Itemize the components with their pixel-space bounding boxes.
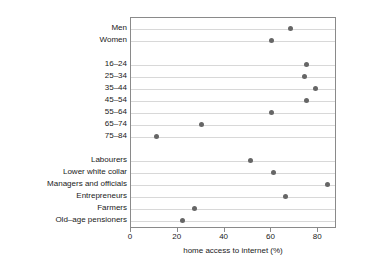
category-label: 75–84	[105, 132, 127, 140]
data-point	[199, 122, 204, 127]
category-label: 35–44	[105, 84, 127, 92]
x-tick-label: 60	[266, 233, 275, 241]
data-point	[180, 218, 185, 223]
grid-line	[131, 173, 335, 174]
category-label: 16–24	[105, 60, 127, 68]
grid-line	[131, 125, 335, 126]
category-label: Entrepreneurs	[76, 192, 127, 200]
category-label: Men	[111, 24, 127, 32]
data-point	[304, 62, 309, 67]
grid-line	[131, 221, 335, 222]
category-label: 55–64	[105, 108, 127, 116]
grid-line	[131, 161, 335, 162]
data-point	[269, 38, 274, 43]
data-point	[313, 86, 318, 91]
x-tick-label: 80	[313, 233, 322, 241]
data-point	[283, 194, 288, 199]
category-label: Labourers	[91, 156, 127, 164]
grid-line	[131, 137, 335, 138]
category-label: Old–age pensioners	[55, 216, 127, 224]
plot-area	[130, 17, 336, 228]
grid-line	[131, 113, 335, 114]
x-axis-title: home access to internet (%)	[130, 247, 336, 255]
category-label: 25–34	[105, 72, 127, 80]
dot-plot-chart: MenWomen16–2425–3435–4445–5455–6465–7475…	[0, 0, 366, 274]
category-label: Farmers	[97, 204, 127, 212]
data-point	[154, 134, 159, 139]
grid-line	[131, 29, 335, 30]
x-tick-label: 0	[128, 233, 132, 241]
data-point	[248, 158, 253, 163]
category-label: 45–54	[105, 96, 127, 104]
data-point	[192, 206, 197, 211]
x-tick-label: 40	[219, 233, 228, 241]
grid-line	[131, 209, 335, 210]
category-label: Managers and officials	[47, 180, 127, 188]
data-point	[302, 74, 307, 79]
data-point	[325, 182, 330, 187]
category-label: Women	[100, 36, 127, 44]
grid-line	[131, 89, 335, 90]
category-label: Lower white collar	[63, 168, 127, 176]
grid-line	[131, 185, 335, 186]
x-tick-label: 20	[172, 233, 181, 241]
data-point	[288, 26, 293, 31]
category-label: 65–74	[105, 120, 127, 128]
grid-line	[131, 41, 335, 42]
data-point	[269, 110, 274, 115]
grid-line	[131, 197, 335, 198]
data-point	[304, 98, 309, 103]
data-point	[271, 170, 276, 175]
